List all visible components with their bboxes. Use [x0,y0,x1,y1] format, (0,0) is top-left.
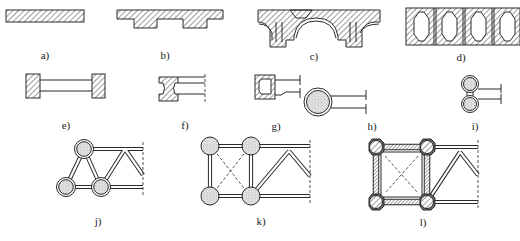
section-a [6,10,84,22]
section-l [369,139,478,210]
label-c: c) [310,50,319,62]
section-j [57,140,144,197]
label-i: i) [472,120,479,132]
section-e [26,74,105,98]
label-d: d) [456,51,465,63]
section-k [201,137,310,205]
label-h: h) [367,120,376,132]
label-l: l) [420,216,427,228]
section-h [304,88,366,116]
label-b: b) [160,49,169,61]
label-k: k) [256,215,265,227]
figure-drawing [0,0,520,241]
label-a: a) [41,49,50,61]
label-g: g) [271,120,280,132]
label-f: f) [181,119,188,131]
section-i [462,76,502,113]
section-b [117,10,223,28]
section-g [255,75,300,99]
section-d [406,8,520,45]
section-f [159,74,205,104]
section-c [258,10,380,47]
figure-canvas: a) b) c) d) e) f) g) h) i) j) k) l) [0,0,520,241]
label-j: j) [95,215,102,227]
label-e: e) [62,119,71,131]
